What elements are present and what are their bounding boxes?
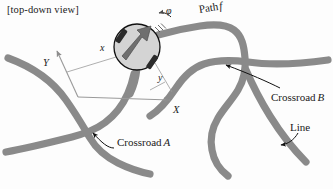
dimension-x-label: x (100, 43, 104, 53)
dimension-y-label: y (158, 73, 162, 83)
robot (114, 24, 160, 70)
dimension-y-tick (150, 82, 165, 90)
road-robot-stem (130, 68, 137, 94)
road-line-lower-right (246, 70, 306, 162)
road-left-descending (8, 58, 150, 174)
crossroad-b-text: Crossroad (271, 91, 316, 103)
line-label: Line (290, 122, 310, 133)
view-title: [top-down view] (7, 5, 79, 16)
axis-y-label: Y (43, 58, 49, 69)
crossroad-a-text: Crossroad (117, 136, 162, 148)
crossroad-a-label: CrossroadA (117, 137, 170, 148)
road-lower-left-branch (6, 74, 134, 152)
crossroad-a-symbol: A (162, 136, 171, 148)
diagram-page: [top-down view] φ Pathf Y X x y Crossroa… (0, 0, 333, 189)
crossroad-b-symbol: B (316, 91, 325, 103)
axis-x-label: X (173, 105, 179, 116)
heading-angle-label: φ (166, 6, 172, 16)
crossroad-b-label: CrossroadB (271, 92, 324, 103)
